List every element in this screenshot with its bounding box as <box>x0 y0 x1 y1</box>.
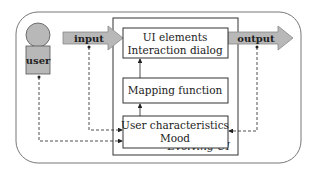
box-ui-elements-line2: Interaction dialog <box>127 44 223 56</box>
dashed-user-to-userchar <box>39 77 122 141</box>
dashed-output-to-userchar <box>229 47 257 131</box>
box-user-char-line2: Mood <box>160 132 190 144</box>
output-label: output <box>237 33 275 44</box>
user-label: user <box>26 55 51 66</box>
input-label: input <box>74 33 104 44</box>
box-mapping-line1: Mapping function <box>128 84 223 96</box>
box-ui-elements-line1: UI elements <box>143 31 208 43</box>
dashed-input-to-userchar <box>89 47 122 130</box>
diagram-canvas: Evolving UI user input output UI element… <box>0 0 313 183</box>
box-user-char-line1: User characteristics <box>121 119 229 131</box>
user-head-icon <box>26 23 50 47</box>
